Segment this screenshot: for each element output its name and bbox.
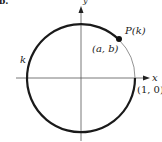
- arc-label: k: [20, 54, 26, 65]
- point-label: P(k): [124, 25, 146, 36]
- y-axis-label: y: [82, 0, 88, 5]
- unit-circle-diagram: b. x y P(k) (a, b) k (1, 0): [0, 0, 162, 142]
- x-axis-arrow-icon: [143, 76, 150, 81]
- point-p: [116, 36, 122, 42]
- x-axis-label: x: [152, 72, 158, 83]
- point-coords-label: (a, b): [92, 43, 119, 54]
- y-axis-arrow-icon: [79, 6, 84, 13]
- part-label: b.: [0, 0, 8, 6]
- start-point-label: (1, 0): [137, 84, 162, 95]
- thin-arc: [119, 40, 135, 78]
